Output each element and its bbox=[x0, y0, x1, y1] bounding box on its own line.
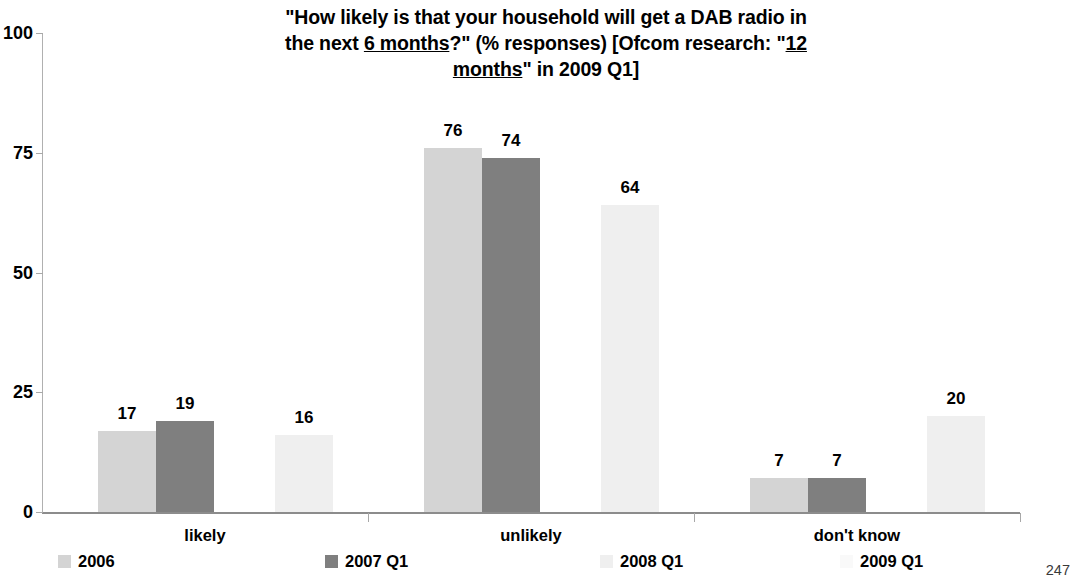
legend-swatch-icon bbox=[325, 555, 338, 568]
bar-value-label: 74 bbox=[468, 132, 554, 149]
legend-swatch-icon bbox=[600, 555, 613, 568]
x-axis-tick-mark bbox=[368, 513, 369, 522]
bar-2008-q1-dontknow bbox=[927, 416, 985, 512]
bar-2006-unlikely bbox=[424, 148, 482, 512]
x-axis-category-label: don't know bbox=[694, 526, 1020, 544]
legend-swatch-icon bbox=[840, 555, 853, 568]
bar-value-label: 7 bbox=[794, 452, 880, 469]
x-axis-line bbox=[42, 512, 1020, 514]
bar-2007-q1-likely bbox=[156, 421, 214, 512]
x-axis-category-label: unlikely bbox=[368, 526, 694, 544]
legend-entry-2007-q1[interactable]: 2007 Q1 bbox=[325, 553, 408, 570]
legend-label: 2007 Q1 bbox=[345, 553, 408, 570]
legend-label: 2008 Q1 bbox=[620, 553, 683, 570]
bar-2006-likely bbox=[98, 431, 156, 512]
x-axis-tick-mark bbox=[1020, 513, 1021, 522]
bar-2007-q1-unlikely bbox=[482, 158, 540, 512]
bar-2007-q1-dontknow bbox=[808, 478, 866, 512]
x-axis-category-label: likely bbox=[42, 526, 368, 544]
chart-legend: 20062007 Q12008 Q12009 Q1 bbox=[0, 553, 1078, 579]
page-number: 247 bbox=[1046, 562, 1070, 578]
bar-2008-q1-unlikely bbox=[601, 205, 659, 512]
bar-2008-q1-likely bbox=[275, 435, 333, 512]
legend-entry-2008-q1[interactable]: 2008 Q1 bbox=[600, 553, 683, 570]
bar-value-label: 64 bbox=[587, 179, 673, 196]
bar-value-label: 19 bbox=[142, 395, 228, 412]
y-axis-tick-mark bbox=[36, 512, 43, 513]
legend-entry-2009-q1[interactable]: 2009 Q1 bbox=[840, 553, 923, 570]
bars-layer: 1719167674647720 bbox=[0, 0, 1078, 512]
legend-label: 2009 Q1 bbox=[860, 553, 923, 570]
legend-entry-2006[interactable]: 2006 bbox=[58, 553, 115, 570]
x-axis-tick-mark bbox=[694, 513, 695, 522]
legend-swatch-icon bbox=[58, 555, 71, 568]
bar-2006-dontknow bbox=[750, 478, 808, 512]
bar-value-label: 20 bbox=[913, 390, 999, 407]
bar-value-label: 16 bbox=[261, 409, 347, 426]
legend-label: 2006 bbox=[78, 553, 115, 570]
